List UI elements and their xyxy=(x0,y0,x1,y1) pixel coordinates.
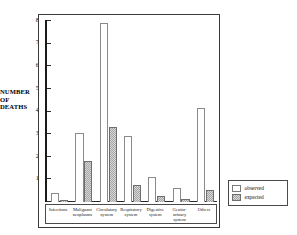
category-label-line2: neoplasms xyxy=(69,212,95,217)
category-label: Genito-urinary system xyxy=(166,207,192,223)
legend-label-observed: observed xyxy=(245,185,264,191)
category-label: Others xyxy=(191,207,217,212)
open-square-swatch-icon xyxy=(232,185,241,192)
bar-expected xyxy=(60,200,68,202)
bar-expected xyxy=(109,127,117,202)
category-label-line1: Infections xyxy=(45,207,71,212)
category-label: Respiratorysystem xyxy=(118,207,144,218)
bar-expected xyxy=(206,190,214,202)
bar-observed xyxy=(51,193,59,202)
bar-group xyxy=(51,20,68,202)
y-axis-title-line2: OF DEATHS xyxy=(0,96,27,111)
chart-legend: observed expected xyxy=(228,180,288,206)
chart-figure: NUMBER OF DEATHS 01020304050607080 Infec… xyxy=(0,0,297,235)
bar-expected xyxy=(157,196,165,202)
bar-group xyxy=(148,20,165,202)
bar-observed xyxy=(173,188,181,202)
plot-area xyxy=(47,20,217,202)
category-label-line2: system xyxy=(142,212,168,217)
bar-group xyxy=(100,20,117,202)
category-label: Circulatorysystem xyxy=(94,207,120,218)
category-label: Malignantneoplasms xyxy=(69,207,95,218)
bar-group xyxy=(75,20,92,202)
bar-group xyxy=(173,20,190,202)
bar-observed xyxy=(75,133,83,202)
category-label: Infections xyxy=(45,207,71,212)
legend-item-expected: expected xyxy=(232,193,284,202)
category-label-line2: system xyxy=(94,212,120,217)
bar-expected xyxy=(84,161,92,202)
category-label: Digestivesystem xyxy=(142,207,168,218)
legend-item-observed: observed xyxy=(232,184,284,193)
bar-observed xyxy=(124,136,132,202)
hatched-square-swatch-icon xyxy=(232,194,241,201)
bar-group xyxy=(124,20,141,202)
bar-expected xyxy=(133,185,141,202)
bar-group xyxy=(197,20,214,202)
category-label-line2: system xyxy=(118,212,144,217)
bar-observed xyxy=(197,108,205,202)
bar-expected xyxy=(181,199,189,202)
legend-label-expected: expected xyxy=(245,194,264,200)
category-label-line1: Others xyxy=(191,207,217,212)
bar-observed xyxy=(148,177,156,202)
bar-observed xyxy=(100,23,108,202)
category-label-band: InfectionsMalignantneoplasmsCirculatorys… xyxy=(45,204,217,224)
category-label-line2: urinary system xyxy=(166,212,192,223)
